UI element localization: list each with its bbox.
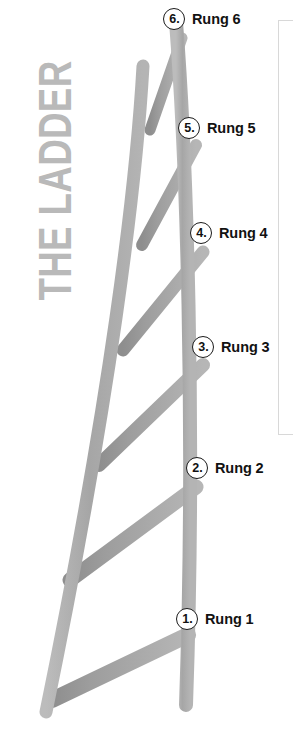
rung-label-6: Rung 6 — [192, 11, 241, 27]
rung-callout-6[interactable]: 6. Rung 6 — [163, 8, 241, 30]
ladder-diagram-canvas: THE LADDER — [0, 0, 293, 737]
rung-marker-2: 2. — [186, 457, 208, 479]
rung-callout-2[interactable]: 2. Rung 2 — [186, 457, 264, 479]
rung-marker-3: 3. — [192, 336, 214, 358]
rung-label-3: Rung 3 — [221, 339, 270, 355]
rung-label-5: Rung 5 — [207, 120, 256, 136]
rung-marker-6: 6. — [163, 8, 185, 30]
rung-marker-4: 4. — [190, 222, 212, 244]
ladder-left-rail — [46, 66, 143, 712]
rung-marker-5: 5. — [178, 117, 200, 139]
rung-callout-1[interactable]: 1. Rung 1 — [176, 608, 254, 630]
rung-label-4: Rung 4 — [219, 225, 268, 241]
rung-callout-4[interactable]: 4. Rung 4 — [190, 222, 268, 244]
rung-callout-5[interactable]: 5. Rung 5 — [178, 117, 256, 139]
rung-label-1: Rung 1 — [205, 611, 254, 627]
rung-marker-1: 1. — [176, 608, 198, 630]
rung-label-2: Rung 2 — [215, 460, 264, 476]
rung-callout-3[interactable]: 3. Rung 3 — [192, 336, 270, 358]
side-panel — [278, 20, 293, 435]
